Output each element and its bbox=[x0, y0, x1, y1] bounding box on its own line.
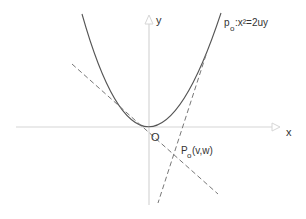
curve-equation: :x²=2uy bbox=[235, 17, 268, 28]
y-axis-label: y bbox=[156, 14, 162, 26]
x-axis-label: x bbox=[286, 126, 292, 138]
origin-label: O bbox=[151, 131, 160, 143]
point-coords: (v,w) bbox=[192, 145, 213, 156]
tangent-line-right bbox=[158, 55, 206, 203]
diagram-canvas: y x O p o :x²=2uy P o (v,w) bbox=[0, 0, 306, 219]
y-axis bbox=[145, 15, 153, 205]
parabola-curve bbox=[82, 13, 221, 127]
tangent-line-left bbox=[72, 64, 218, 194]
